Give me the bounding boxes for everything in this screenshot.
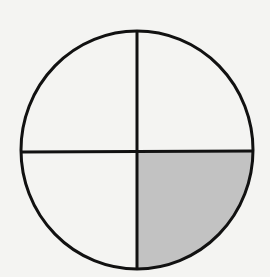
fraction-circle-svg <box>0 0 270 277</box>
shaded-quarter <box>137 150 253 269</box>
horizontal-divider <box>21 151 253 152</box>
fraction-circle-diagram <box>0 0 270 277</box>
